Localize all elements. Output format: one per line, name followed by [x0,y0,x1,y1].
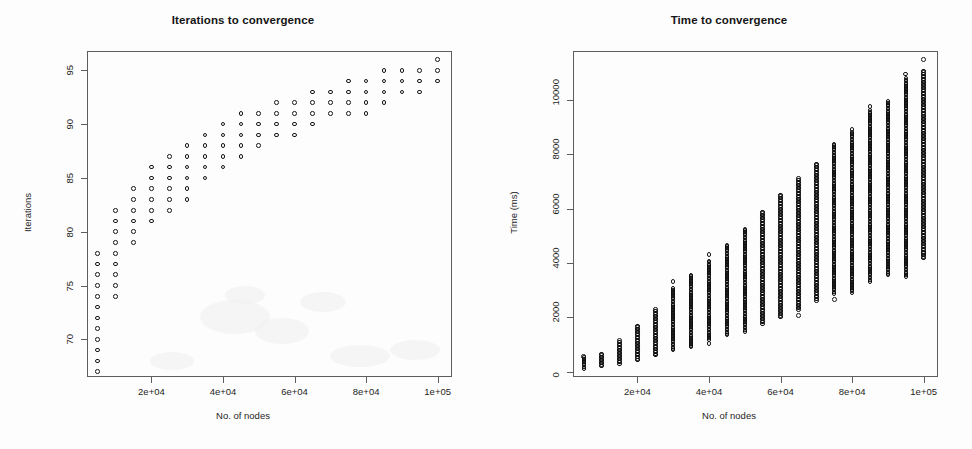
x-tick-label: 8e+04 [353,386,380,397]
figure-canvas: Iterations to convergence 7075808590952e… [0,0,972,449]
scatter-point [149,176,154,181]
plot-title-time: Time to convergence [486,14,972,26]
scatter-point [581,354,586,359]
scatter-point [707,341,712,346]
scatter-point [310,90,315,95]
x-tick-mark [709,377,710,383]
scatter-point [921,250,926,255]
x-tick-label: 4e+04 [210,386,237,397]
scatter-point [850,127,855,132]
scatter-point [131,219,136,224]
scatter-point [113,208,118,213]
scatter-point [95,316,100,321]
scatter-point [310,111,315,116]
scatter-point [635,358,639,362]
scatter-point [95,359,100,364]
scatter-point [814,298,818,302]
y-tick-mark [81,232,87,233]
x-tick-mark [295,377,296,383]
y-axis-title-time: Time (ms) [508,153,519,273]
scatter-point [239,143,244,148]
x-tick-mark [223,377,224,383]
y-tick-mark [567,209,573,210]
scatter-point [868,279,872,283]
scatter-point [400,68,405,73]
scatter-point [328,100,333,105]
scatter-point [149,197,154,202]
scatter-point [921,256,925,260]
scatter-point [113,240,118,245]
scatter-point [832,297,837,302]
scatter-point [921,57,926,62]
scatter-point [167,176,172,181]
plot-title-iterations: Iterations to convergence [0,14,486,26]
y-tick-mark [567,317,573,318]
x-tick-label: 6e+04 [767,386,794,397]
scatter-point [95,337,100,342]
x-tick-mark [781,377,782,383]
scatter-point [346,100,351,105]
y-axis-title-iterations: Iterations [22,153,33,273]
scatter-point [131,197,136,202]
y-tick-mark [81,339,87,340]
scatter-point [346,111,351,116]
scatter-point [239,154,244,159]
scatter-point [221,154,226,159]
scatter-point [417,68,422,73]
x-tick-mark [924,377,925,383]
scatter-point [131,208,136,213]
scatter-point [113,272,118,277]
scatter-point [149,219,154,224]
scatter-point [95,294,100,299]
scatter-point [832,291,836,295]
x-tick-label: 2e+04 [138,386,165,397]
x-tick-label: 1e+05 [424,386,451,397]
y-tick-mark [567,100,573,101]
x-tick-label: 8e+04 [839,386,866,397]
x-tick-label: 1e+05 [910,386,937,397]
x-axis-title-time: No. of nodes [486,410,972,421]
scatter-point [653,353,657,357]
scatter-point [274,111,279,116]
scatter-point [310,100,315,105]
x-tick-label: 6e+04 [281,386,308,397]
scatter-point [328,90,333,95]
scatter-point [149,208,154,213]
scatter-point [239,111,244,116]
scatter-point [725,333,729,337]
scatter-point [274,133,279,138]
y-tick-mark [81,286,87,287]
scatter-point [886,273,890,277]
scatter-point [131,240,136,245]
scatter-point [903,72,908,77]
scatter-point [760,322,764,326]
scatter-point [167,154,172,159]
scatter-point [167,197,172,202]
scatter-point [292,133,297,138]
scatter-point [131,186,136,191]
x-tick-mark [637,377,638,383]
x-tick-label: 2e+04 [624,386,651,397]
scatter-point [796,313,801,318]
scatter-point [167,165,172,170]
scatter-point [113,251,118,256]
y-tick-mark [81,70,87,71]
y-tick-mark [81,124,87,125]
scatter-point [904,274,908,278]
scatter-point [113,294,118,299]
scatter-point [274,100,279,105]
x-tick-mark [151,377,152,383]
scatter-point [346,79,351,84]
scatter-point [435,57,440,62]
scatter-point [435,68,440,73]
scatter-point [167,208,172,213]
x-tick-mark [852,377,853,383]
scatter-point [617,338,622,343]
scatter-point [95,369,100,374]
y-tick-mark [567,263,573,264]
x-tick-label: 4e+04 [696,386,723,397]
plot-frame-iterations [87,51,452,377]
panel-iterations: Iterations to convergence 7075808590952e… [0,0,486,449]
scatter-point [256,143,261,148]
y-tick-mark [567,154,573,155]
